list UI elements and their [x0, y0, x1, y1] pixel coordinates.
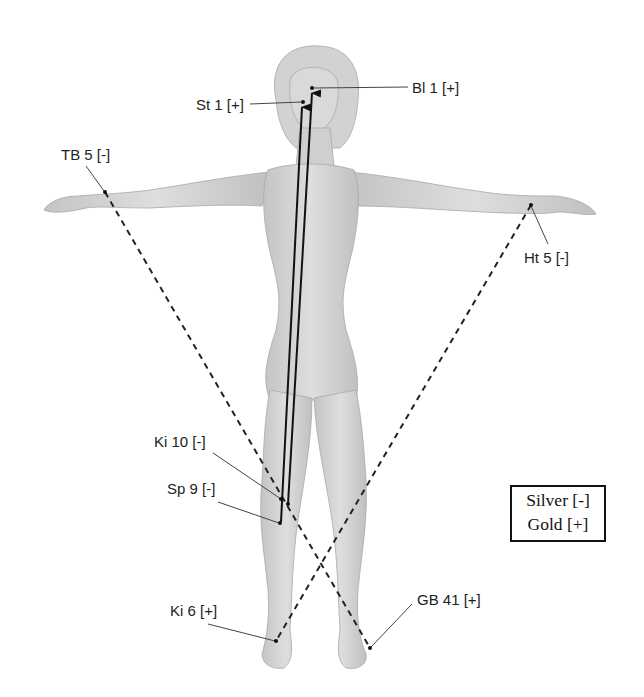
right-arm [350, 172, 596, 215]
label-sp9: Sp 9 [-] [167, 481, 215, 496]
label-bl1: Bl 1 [+] [412, 80, 459, 95]
point-ki6 [274, 639, 278, 643]
label-gb41: GB 41 [+] [417, 592, 481, 607]
acupuncture-diagram: St 1 [+] Bl 1 [+] TB 5 [-] Ht 5 [-] Ki 1… [0, 0, 644, 697]
torso [264, 164, 359, 400]
label-ht5: Ht 5 [-] [524, 250, 569, 265]
body-silhouette [44, 46, 596, 669]
legend-gold: Gold [+] [512, 513, 604, 537]
label-ki6: Ki 6 [+] [170, 603, 217, 618]
body-figure [0, 0, 644, 697]
neck [296, 128, 334, 166]
point-sp9 [278, 521, 282, 525]
point-tb5 [103, 190, 107, 194]
point-ki10b [286, 502, 290, 506]
legend-silver: Silver [-] [512, 489, 604, 513]
point-st1 [301, 100, 305, 104]
label-tb5: TB 5 [-] [61, 147, 110, 162]
point-ht5 [529, 203, 533, 207]
legend-box: Silver [-] Gold [+] [510, 485, 606, 542]
point-ki10 [279, 497, 283, 501]
label-ki10: Ki 10 [-] [154, 434, 206, 449]
left-arm [44, 172, 270, 212]
right-leg [314, 390, 366, 668]
point-gb41 [368, 646, 372, 650]
label-st1: St 1 [+] [196, 97, 244, 112]
point-bl1 [310, 86, 314, 90]
